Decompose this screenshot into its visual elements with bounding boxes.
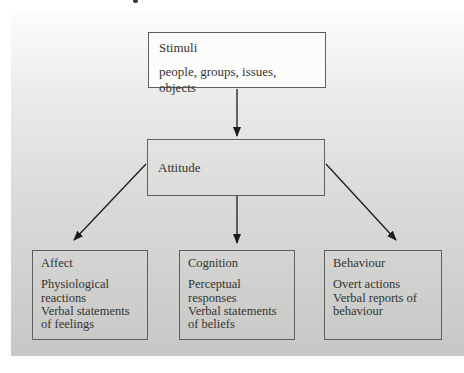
affect-title: Affect bbox=[41, 257, 139, 270]
cognition-box: Cognition Perceptual responses Verbal st… bbox=[179, 250, 295, 340]
behaviour-title: Behaviour bbox=[333, 257, 433, 270]
figure-canvas: Stimuli people, groups, issues, objects … bbox=[0, 0, 464, 373]
affect-line-2: Verbal statements of feelings bbox=[41, 305, 139, 332]
cognition-title: Cognition bbox=[188, 257, 286, 270]
stimuli-title: Stimuli bbox=[159, 40, 315, 56]
cognition-line-1: Perceptual responses bbox=[188, 278, 286, 305]
behaviour-line-1: Overt actions bbox=[333, 278, 433, 291]
stimuli-box: Stimuli people, groups, issues, objects bbox=[148, 32, 326, 88]
cropped-text-remnant bbox=[133, 0, 138, 3]
cognition-line-2: Verbal statements of beliefs bbox=[188, 305, 286, 332]
stimuli-description: people, groups, issues, objects bbox=[159, 64, 315, 96]
affect-line-1: Physiological reactions bbox=[41, 278, 139, 305]
attitude-title: Attitude bbox=[158, 160, 201, 176]
behaviour-box: Behaviour Overt actions Verbal reports o… bbox=[324, 250, 442, 340]
attitude-box: Attitude bbox=[147, 139, 325, 196]
behaviour-line-2: Verbal reports of behaviour bbox=[333, 292, 433, 319]
affect-box: Affect Physiological reactions Verbal st… bbox=[32, 250, 148, 340]
